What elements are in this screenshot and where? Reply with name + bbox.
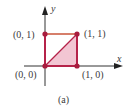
point-0-0 bbox=[42, 63, 47, 68]
y-axis-arrow-icon bbox=[42, 6, 48, 15]
x-axis-label: x bbox=[116, 53, 122, 64]
label-point-0-1: (0, 1) bbox=[13, 29, 35, 41]
point-0-1 bbox=[42, 31, 47, 36]
point-1-1 bbox=[74, 31, 79, 36]
point-1-0 bbox=[74, 63, 79, 68]
label-point-1-1: (1, 1) bbox=[84, 28, 106, 40]
y-axis-label: y bbox=[50, 3, 56, 14]
label-point-0-0: (0, 0) bbox=[15, 69, 37, 81]
unit-square-diagram: (0, 1) (1, 1) (0, 0) (1, 0) x y (a) bbox=[0, 0, 134, 111]
label-point-1-0: (1, 0) bbox=[82, 69, 104, 81]
figure-caption: (a) bbox=[58, 94, 69, 106]
